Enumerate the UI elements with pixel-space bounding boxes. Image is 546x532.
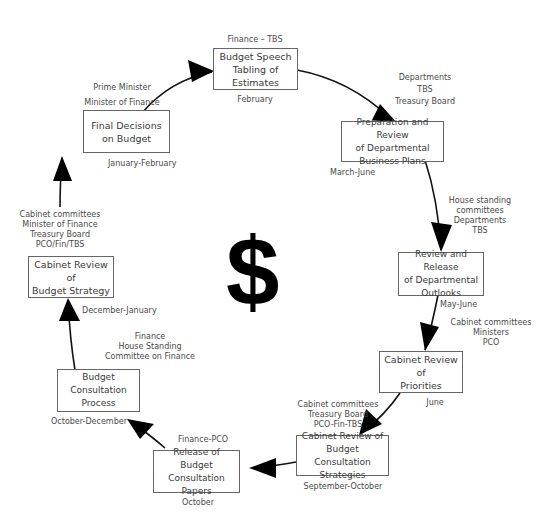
step-2-box: Preparation and Review of Departmental B… [341, 121, 444, 162]
step-3-actors: House standing committees Departments TB… [435, 196, 525, 236]
step-3-timing: May-June [440, 299, 500, 310]
step-9-timing: January-February [108, 158, 188, 169]
step-1-box: Budget Speech Tabling of Estimates [213, 48, 298, 90]
step-6-box: Release of Budget Consultation Papers [153, 450, 240, 493]
step-7-box: Budget Consultation Process [57, 369, 140, 412]
step-8-box: Cabinet Review of Budget Strategy [28, 256, 114, 298]
dollar-sign-icon: $ [226, 222, 279, 322]
step-6-timing: October [163, 497, 233, 508]
step-1-actors: Finance – TBS [205, 34, 305, 45]
step-7-timing: October-December [44, 416, 134, 427]
step-7-actors: Finance House Standing Committee on Fina… [95, 332, 205, 362]
step-9-box: Final Decisions on Budget [83, 110, 170, 153]
arrowhead-8 [59, 298, 80, 321]
step-4-box: Cabinet Review of Priorities [379, 351, 463, 393]
step-2-timing: March-June [330, 167, 400, 178]
step-4-actors: Cabinet committees Ministers PCO [436, 318, 546, 348]
step-4-timing: June [415, 397, 455, 408]
step-8-timing: December-January [82, 305, 162, 316]
step-5-actors: Cabinet committees Treasury Board PCO-Fi… [288, 400, 388, 430]
step-1-timing: February [205, 94, 305, 105]
step-3-box: Review and Release of Departmental Outlo… [398, 252, 484, 296]
step-8-actors: Cabinet committees Minister of Finance T… [10, 210, 110, 250]
step-5-timing: September-October [288, 481, 398, 492]
step-9-actors: Prime Minister Minister of Finance [72, 80, 172, 110]
step-5-box: Cabinet Review of Budget Consultation St… [296, 435, 389, 476]
step-6-actors: Finance-PCO [168, 434, 238, 445]
arrowhead-9 [53, 156, 72, 181]
step-2-actors: Departments TBS Treasury Board [370, 72, 480, 108]
arrowhead-6 [249, 458, 276, 478]
arrowhead-1 [188, 60, 214, 82]
